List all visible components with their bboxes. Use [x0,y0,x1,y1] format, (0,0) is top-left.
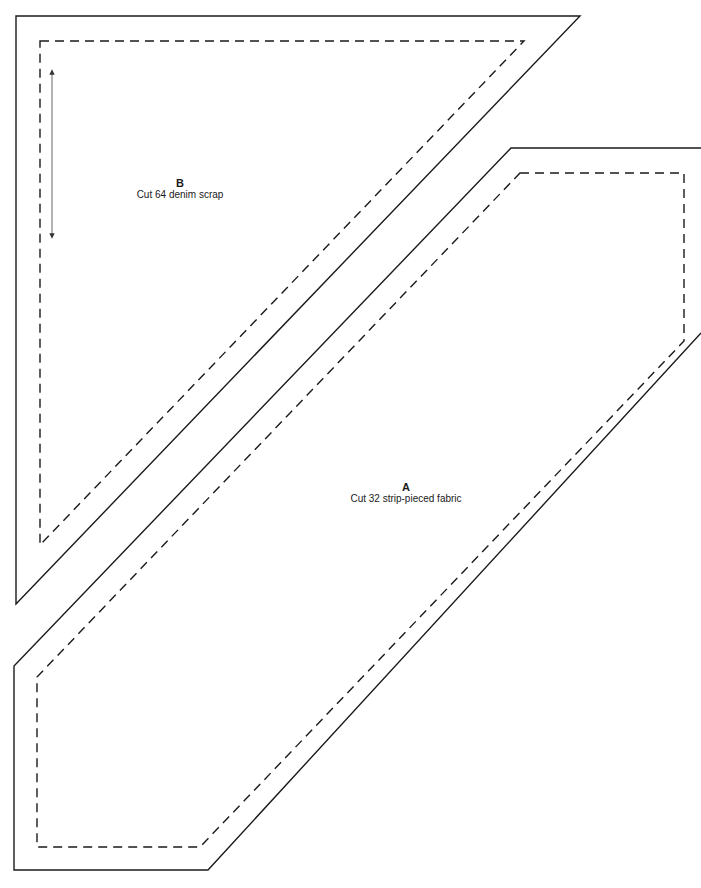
piece-a-cutting-line [14,148,701,870]
piece-a-label: A Cut 32 strip-pieced fabric [306,481,506,505]
piece-b-letter: B [100,177,260,189]
piece-a-letter: A [306,481,506,493]
pattern-sheet [0,0,701,888]
piece-b-cutting-line [16,16,580,604]
piece-a-seam-line [37,173,684,847]
piece-b-instruction: Cut 64 denim scrap [100,189,260,201]
piece-b-label: B Cut 64 denim scrap [100,177,260,201]
piece-a-instruction: Cut 32 strip-pieced fabric [306,493,506,505]
piece-b-seam-line [40,41,524,545]
